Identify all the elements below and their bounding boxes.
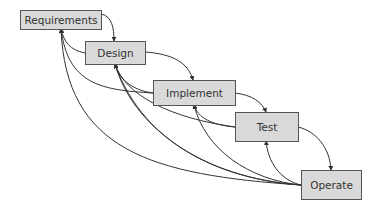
arrow-design-to-implement [145,52,193,80]
arrow-operate-to-test [266,141,301,185]
arrow-implement-to-test [235,93,266,112]
node-operate: Operate [301,170,362,200]
node-design: Design [85,41,146,65]
node-label: Design [97,47,133,59]
node-label: Test [257,121,278,133]
arrow-requirements-to-design [101,14,114,41]
node-label: Operate [310,179,353,191]
node-test: Test [235,112,299,142]
node-label: Requirements [25,14,98,26]
arrow-test-to-operate [298,127,331,170]
node-requirements: Requirements [20,10,102,30]
node-label: Implement [166,87,223,99]
node-implement: Implement [153,80,236,106]
arrow-design-to-requirements [61,29,85,53]
